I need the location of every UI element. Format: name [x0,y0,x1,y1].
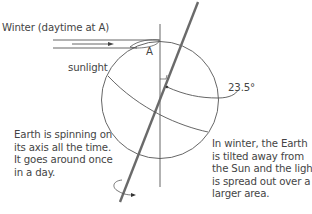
point-a-label: A [146,46,153,59]
sunlight-arrow-head [108,42,114,46]
title-label: Winter (daytime at A) [2,22,109,35]
angle-arc [160,75,167,79]
angle-label: 23.5° [228,82,255,95]
earth-axis [120,2,198,202]
winter-note: In winter, the Earth is tilted away from… [212,138,312,201]
rotation-arrow-head [131,193,136,197]
sunlight-label: sunlight [68,62,108,75]
spin-note: Earth is spinning on its axis all the ti… [14,129,113,179]
